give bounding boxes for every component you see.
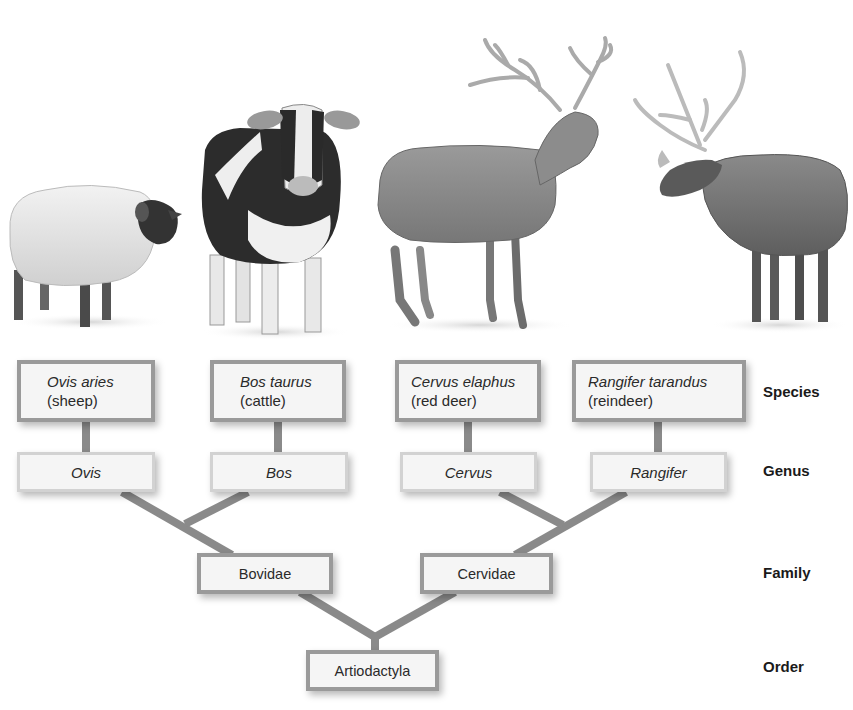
rank-label-order: Order: [763, 658, 804, 675]
taxonomy-diagram: Ovis aries (sheep) Bos taurus (cattle) C…: [0, 0, 853, 710]
species-common-name: (red deer): [411, 391, 537, 410]
species-box-cervus-elaphus: Cervus elaphus (red deer): [395, 360, 541, 422]
order-name: Artiodactyla: [335, 663, 411, 679]
genus-box-bos: Bos: [210, 452, 348, 492]
family-name: Cervidae: [457, 566, 515, 582]
family-box-bovidae: Bovidae: [197, 553, 333, 594]
genus-name: Cervus: [445, 464, 493, 481]
species-scientific-name: Ovis aries: [47, 372, 151, 391]
species-box-ovis-aries: Ovis aries (sheep): [17, 360, 155, 422]
order-box-artiodactyla: Artiodactyla: [306, 650, 439, 691]
species-scientific-name: Rangifer tarandus: [588, 372, 742, 391]
rank-label-species: Species: [763, 383, 820, 400]
genus-name: Ovis: [71, 464, 101, 481]
rank-label-family: Family: [763, 564, 811, 581]
species-common-name: (reindeer): [588, 391, 742, 410]
rank-label-genus: Genus: [763, 462, 810, 479]
family-name: Bovidae: [239, 566, 291, 582]
species-box-bos-taurus: Bos taurus (cattle): [210, 360, 346, 422]
genus-name: Rangifer: [630, 464, 687, 481]
genus-name: Bos: [266, 464, 292, 481]
species-box-rangifer-tarandus: Rangifer tarandus (reindeer): [572, 360, 746, 422]
tree-connectors: [0, 0, 853, 710]
species-common-name: (sheep): [47, 391, 151, 410]
species-scientific-name: Cervus elaphus: [411, 372, 537, 391]
genus-box-rangifer: Rangifer: [590, 452, 727, 492]
genus-box-cervus: Cervus: [400, 452, 537, 492]
species-common-name: (cattle): [240, 391, 342, 410]
species-scientific-name: Bos taurus: [240, 372, 342, 391]
genus-box-ovis: Ovis: [17, 452, 155, 492]
family-box-cervidae: Cervidae: [420, 553, 553, 594]
